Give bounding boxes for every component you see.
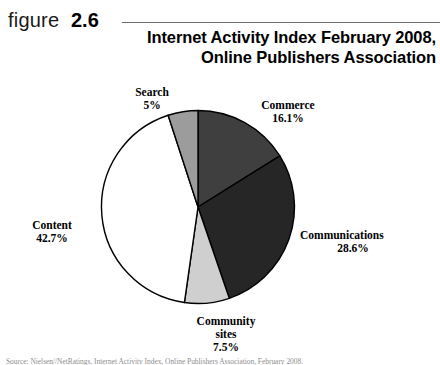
pie-label-communications: Communications 28.6% xyxy=(300,229,420,255)
pie-label-communications-value: 28.6% xyxy=(300,242,406,255)
pie-label-content-name: Content xyxy=(18,219,86,232)
pie-label-content-value: 42.7% xyxy=(18,232,86,245)
source-caption: Source: Nielsen//NetRatings, Internet Ac… xyxy=(6,357,436,365)
pie-label-content: Content 42.7% xyxy=(18,219,86,245)
pie-chart: Search 5% Commerce 16.1% Communications … xyxy=(0,0,440,365)
pie-label-search-name: Search xyxy=(120,86,184,99)
pie-label-community-sites: Community sites 7.5% xyxy=(183,315,269,354)
pie-label-search: Search 5% xyxy=(120,86,184,112)
pie-label-commerce-name: Commerce xyxy=(243,99,333,112)
pie-label-communications-name: Communications xyxy=(300,229,420,242)
pie-chart-svg xyxy=(0,0,440,365)
pie-label-community-value: 7.5% xyxy=(183,341,269,354)
pie-label-community-name-line2: sites xyxy=(183,328,269,341)
pie-label-community-name-line1: Community xyxy=(183,315,269,328)
pie-label-commerce-value: 16.1% xyxy=(243,112,333,125)
pie-slice-group xyxy=(101,111,294,304)
pie-label-commerce: Commerce 16.1% xyxy=(243,99,333,125)
pie-label-search-value: 5% xyxy=(120,99,184,112)
